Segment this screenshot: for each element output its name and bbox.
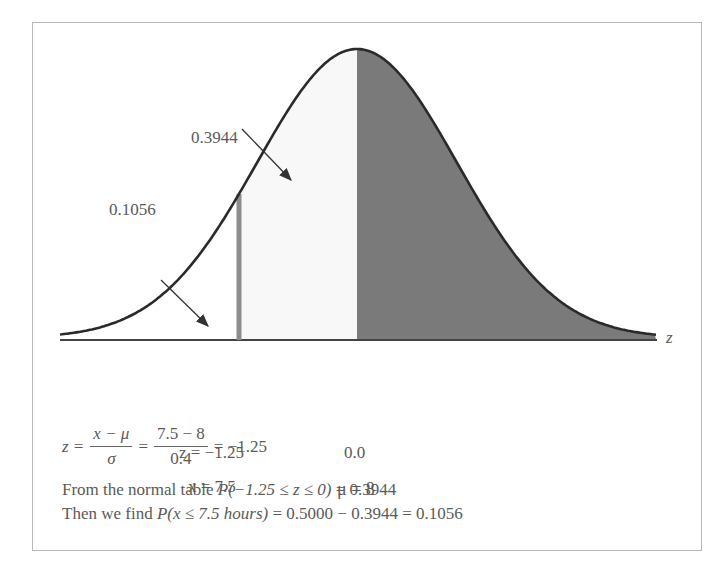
formula-equals: = <box>138 437 148 457</box>
formula-result: = −1.25 <box>214 437 267 457</box>
right-half-area <box>357 49 656 340</box>
line1-probability: P(−1.25 ≤ z ≤ 0) <box>218 480 332 499</box>
frac2-denominator: 0.4 <box>170 447 191 469</box>
fraction-general: x − μ σ <box>90 424 132 469</box>
label-area-tail: 0.1056 <box>109 200 156 220</box>
text-line-normal-table: From the normal table P(−1.25 ≤ z ≤ 0) =… <box>62 480 396 500</box>
fraction-values: 7.5 − 8 0.4 <box>154 424 208 469</box>
text-line-result: Then we find P(x ≤ 7.5 hours) = 0.5000 −… <box>62 504 463 524</box>
line2-prefix: Then we find <box>62 504 157 523</box>
formula-lhs: z = <box>62 437 84 457</box>
tick-center-z: 0.0 <box>344 443 365 463</box>
z-formula: z = x − μ σ = 7.5 − 8 0.4 = −1.25 <box>62 424 267 469</box>
line2-probability: P(x ≤ 7.5 hours) <box>157 504 268 523</box>
line2-value: = 0.5000 − 0.3944 = 0.1056 <box>268 504 463 523</box>
arrow-tail-area <box>161 280 208 326</box>
axis-label-z: z <box>666 328 673 348</box>
line1-value: = 0.3944 <box>332 480 397 499</box>
frac1-numerator: x − μ <box>90 424 132 447</box>
middle-area <box>239 49 357 340</box>
line1-prefix: From the normal table <box>62 480 218 499</box>
label-area-middle: 0.3944 <box>191 128 238 148</box>
frac2-numerator: 7.5 − 8 <box>154 424 208 447</box>
frac1-denominator: σ <box>107 447 115 469</box>
